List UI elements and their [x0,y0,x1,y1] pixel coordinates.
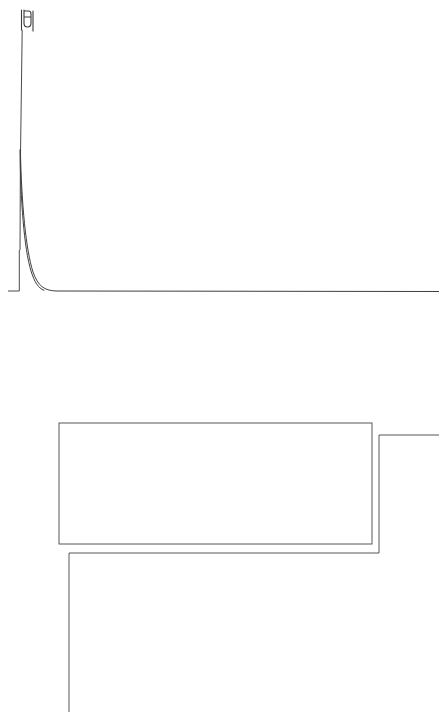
inner-rectangle [59,423,372,544]
stepped-bracket-path [69,435,439,712]
decay-curve [20,150,439,292]
baseline-stub-corner [8,250,19,291]
vertical-stem-line [20,30,22,250]
line-drawing-figure [0,0,439,712]
hook-glyph-icon [22,10,34,31]
drawing-canvas [0,0,439,712]
